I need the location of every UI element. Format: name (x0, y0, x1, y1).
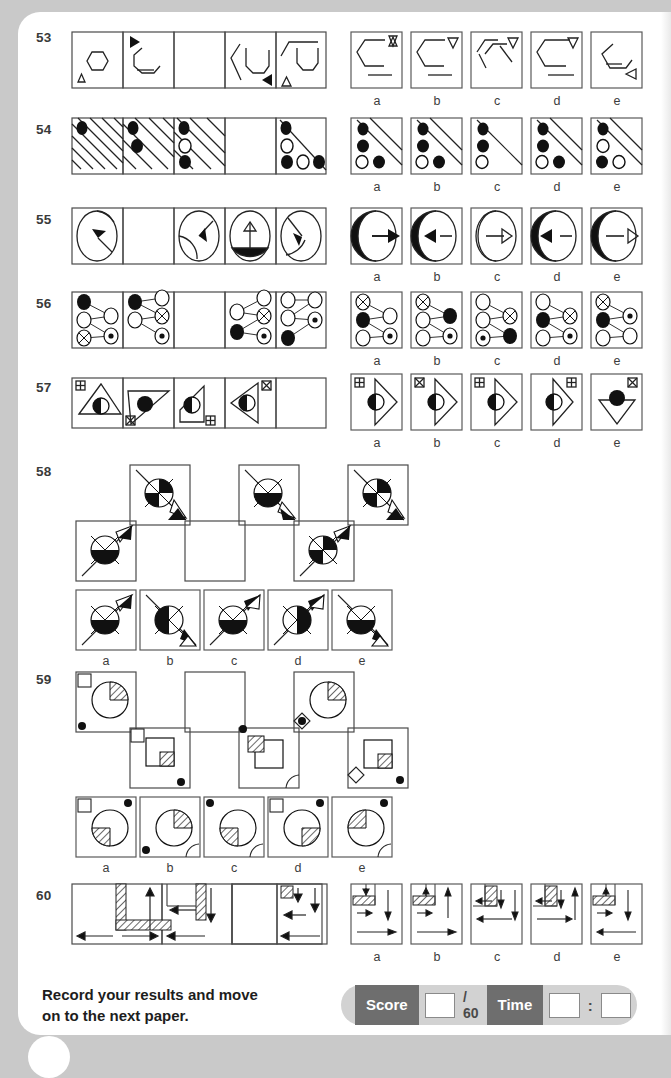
option-label-53-b[interactable]: b (422, 94, 452, 108)
time-label: Time (487, 985, 544, 1025)
option-label-59-e[interactable]: e (347, 861, 377, 875)
score-input[interactable] (425, 993, 455, 1018)
question-number-56: 56 (36, 296, 52, 311)
score-label: Score (355, 985, 419, 1025)
test-page-sheet (18, 12, 671, 1035)
page-edge-shadow (661, 12, 671, 1035)
option-label-56-d[interactable]: d (542, 354, 572, 368)
option-label-53-a[interactable]: a (362, 94, 392, 108)
footer-instruction-line2: on to the next paper. (42, 1005, 332, 1026)
option-label-57-c[interactable]: c (482, 436, 512, 450)
score-time-bar: Score / 60 Time : (341, 985, 637, 1025)
footer-instruction-line1: Record your results and move (42, 984, 332, 1005)
question-number-59: 59 (36, 672, 52, 687)
option-label-58-b[interactable]: b (155, 654, 185, 668)
option-label-58-a[interactable]: a (91, 654, 121, 668)
question-number-58: 58 (36, 464, 52, 479)
option-label-56-b[interactable]: b (422, 354, 452, 368)
option-label-53-e[interactable]: e (602, 94, 632, 108)
option-label-60-e[interactable]: e (602, 950, 632, 964)
option-label-54-a[interactable]: a (362, 180, 392, 194)
option-label-53-c[interactable]: c (482, 94, 512, 108)
question-number-53: 53 (36, 30, 52, 45)
question-number-60: 60 (36, 888, 52, 903)
option-label-59-c[interactable]: c (219, 861, 249, 875)
option-label-58-c[interactable]: c (219, 654, 249, 668)
time-colon: : (588, 997, 593, 1014)
option-label-54-e[interactable]: e (602, 180, 632, 194)
time-minutes-input[interactable] (549, 993, 579, 1018)
option-label-60-c[interactable]: c (482, 950, 512, 964)
option-label-59-b[interactable]: b (155, 861, 185, 875)
option-label-57-d[interactable]: d (542, 436, 572, 450)
option-label-53-d[interactable]: d (542, 94, 572, 108)
score-total: / 60 (463, 989, 480, 1021)
option-label-57-b[interactable]: b (422, 436, 452, 450)
option-label-58-d[interactable]: d (283, 654, 313, 668)
option-label-57-e[interactable]: e (602, 436, 632, 450)
option-label-55-b[interactable]: b (422, 270, 452, 284)
option-label-60-a[interactable]: a (362, 950, 392, 964)
option-label-60-d[interactable]: d (542, 950, 572, 964)
question-number-54: 54 (36, 122, 52, 137)
option-label-55-a[interactable]: a (362, 270, 392, 284)
option-label-57-a[interactable]: a (362, 436, 392, 450)
option-label-55-e[interactable]: e (602, 270, 632, 284)
footer-instruction: Record your results and move on to the n… (42, 984, 332, 1026)
option-label-58-e[interactable]: e (347, 654, 377, 668)
option-label-54-d[interactable]: d (542, 180, 572, 194)
option-label-56-c[interactable]: c (482, 354, 512, 368)
option-label-56-a[interactable]: a (362, 354, 392, 368)
option-label-59-d[interactable]: d (283, 861, 313, 875)
option-label-55-c[interactable]: c (482, 270, 512, 284)
option-label-56-e[interactable]: e (602, 354, 632, 368)
question-number-57: 57 (36, 380, 52, 395)
question-number-55: 55 (36, 212, 52, 227)
option-label-59-a[interactable]: a (91, 861, 121, 875)
page-number-circle (28, 1036, 70, 1078)
time-seconds-input[interactable] (601, 993, 631, 1018)
option-label-54-b[interactable]: b (422, 180, 452, 194)
option-label-54-c[interactable]: c (482, 180, 512, 194)
option-label-60-b[interactable]: b (422, 950, 452, 964)
option-label-55-d[interactable]: d (542, 270, 572, 284)
